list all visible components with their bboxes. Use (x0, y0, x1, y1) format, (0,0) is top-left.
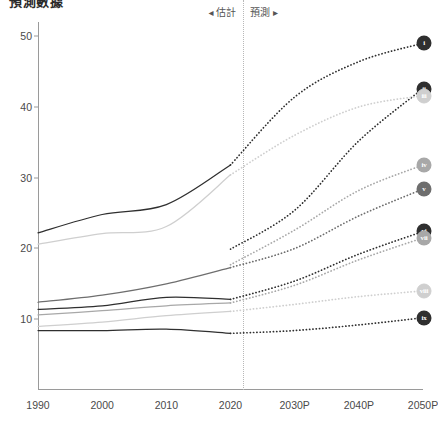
series-history-line (38, 268, 231, 303)
series-forecast-line (231, 231, 424, 299)
y-tick-label: 50 (20, 30, 32, 42)
series-history-line (38, 165, 231, 233)
series-forecast-line (231, 165, 424, 265)
series-forecast-line (231, 89, 424, 250)
estimate-label: ◂ 估計 (209, 4, 244, 19)
series-badge-ix[interactable]: ix (417, 310, 432, 325)
x-tick-label: 2000 (90, 399, 113, 411)
y-tick-label: 20 (20, 242, 32, 254)
series-layer (38, 22, 423, 390)
series-forecast-line (231, 291, 424, 312)
series-forecast-line (231, 318, 424, 334)
series-badge-i[interactable]: i (417, 36, 432, 51)
series-badge-iv[interactable]: iv (417, 157, 432, 172)
series-badge-v[interactable]: v (417, 182, 432, 197)
series-badge-iii[interactable]: iii (417, 88, 432, 103)
series-badge-viii[interactable]: viii (417, 283, 432, 298)
x-tick-label: 1990 (26, 399, 49, 411)
x-tick-label: 2020 (219, 399, 242, 411)
y-tick-label: 10 (20, 313, 32, 325)
x-tick-label: 2010 (155, 399, 178, 411)
plot-area: 1020304050 19902000201020202030P2040P205… (38, 22, 423, 390)
y-tick-label: 40 (20, 101, 32, 113)
page-title: 預測數據 (9, 0, 63, 10)
series-forecast-line (231, 96, 424, 175)
forecast-label: 預測 ▸ (243, 4, 278, 19)
series-history-line (38, 329, 231, 333)
series-badge-vii[interactable]: vii (417, 230, 432, 245)
x-tick-label: 2040P (344, 399, 374, 411)
x-tick-label: 2030P (279, 399, 309, 411)
series-forecast-line (231, 189, 424, 268)
series-forecast-line (231, 43, 424, 165)
x-tick-label: 2050P (408, 399, 438, 411)
y-tick-label: 30 (20, 172, 32, 184)
